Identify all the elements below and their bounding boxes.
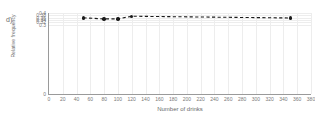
x-tick-label: 380 [301, 96, 315, 102]
x-axis-title: Number of drinks [49, 106, 311, 112]
x-axis-tick-labels: 0204060801001201401601802002202402602803… [0, 0, 315, 120]
chart-figure: d) Relative frequency 00.30.320.340.360.… [0, 0, 315, 120]
